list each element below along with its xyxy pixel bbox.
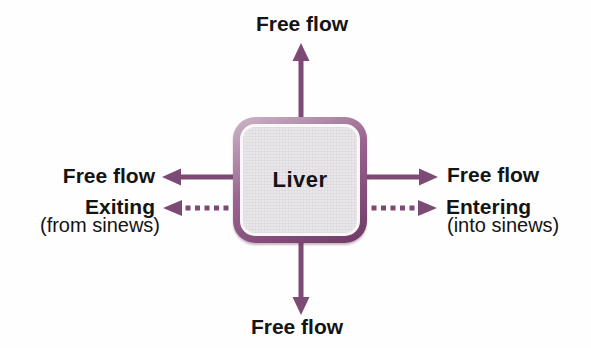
liver-box: Liver bbox=[233, 117, 367, 243]
up-arrow-icon bbox=[293, 43, 310, 120]
liver-box-fill: Liver bbox=[243, 127, 357, 233]
label-free-flow-top: Free flow bbox=[202, 13, 402, 35]
right-arrow-icon bbox=[360, 169, 438, 186]
label-free-flow-bottom: Free flow bbox=[197, 316, 397, 338]
label-free-flow-right: Free flow bbox=[447, 164, 539, 186]
left-arrow-icon bbox=[162, 169, 240, 186]
left-dashed-arrow-icon bbox=[163, 200, 238, 216]
liver-box-rim: Liver bbox=[240, 124, 360, 236]
liver-flow-diagram: Liver Free flow Free flow Free flow Exit… bbox=[0, 0, 591, 348]
right-dashed-arrow-icon bbox=[362, 200, 437, 216]
down-arrow-icon bbox=[293, 240, 310, 315]
label-free-flow-left: Free flow bbox=[63, 165, 155, 187]
liver-box-label: Liver bbox=[272, 167, 327, 193]
label-into-sinews: (into sinews) bbox=[447, 215, 559, 236]
label-from-sinews: (from sinews) bbox=[40, 215, 160, 236]
